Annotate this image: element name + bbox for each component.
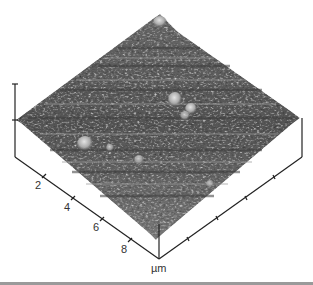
axis-unit-label: µm [151,263,167,274]
x-tick-label-8: 8 [121,244,127,255]
surface [16,14,300,240]
x-tick-label-4: 4 [64,202,70,213]
x-tick-label-2: 2 [35,180,41,191]
afm-surface-plot [0,0,313,285]
x-tick-label-6: 6 [93,222,99,233]
